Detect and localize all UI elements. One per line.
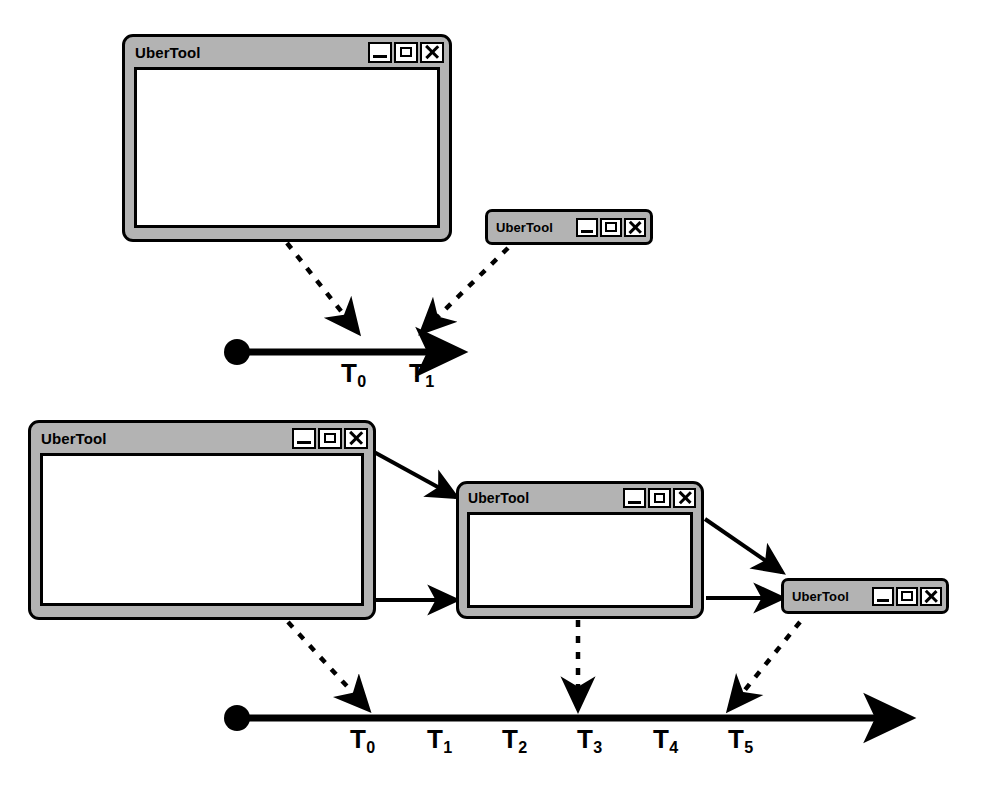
transition-arrow-s1-minimized-to-t1 [424,248,508,330]
close-icon[interactable] [624,218,646,237]
window-title: UberTool [792,590,849,603]
timeline-1-tick-label-t0: T0 [341,360,366,386]
window-controls[interactable] [576,218,646,237]
window-ubertool-large-s2[interactable]: UberTool [28,420,376,620]
close-icon[interactable] [344,428,368,449]
window-title: UberTool [468,491,529,505]
timeline-2-tick-label-t2: T2 [502,726,527,752]
maximize-icon[interactable] [600,218,622,237]
timeline-2-tick-label-t1: T1 [427,726,452,752]
timeline-2-tick-label-t0: T0 [350,726,375,752]
titlebar[interactable]: UberTool [784,581,946,611]
timeline-2 [224,705,908,731]
window-controls[interactable] [368,42,444,63]
maximize-icon[interactable] [318,428,342,449]
minimize-icon[interactable] [292,428,316,449]
close-icon[interactable] [920,587,942,606]
window-ubertool-minimized-s2[interactable]: UberTool [781,578,949,614]
maximize-icon[interactable] [648,488,671,508]
minimize-icon[interactable] [872,587,894,606]
window-title: UberTool [135,45,201,60]
window-controls[interactable] [623,488,696,508]
transition-arrow-s1-normal-to-t0 [287,243,356,330]
timeline-2-tick-label-t4: T4 [653,726,678,752]
close-icon[interactable] [420,42,444,63]
window-title: UberTool [496,221,553,234]
titlebar[interactable]: UberTool [125,37,449,67]
minimize-icon[interactable] [368,42,392,63]
window-content-area [40,453,364,606]
window-ubertool-medium-s2[interactable]: UberTool [456,481,704,619]
timeline-2-tick-label-t5: T5 [728,726,753,752]
minimize-icon[interactable] [623,488,646,508]
window-ubertool-normal-s1[interactable]: UberTool [122,34,452,242]
titlebar[interactable]: UberTool [488,212,650,242]
maximize-icon[interactable] [394,42,418,63]
transition-arrow-s2-minimized-to-t5 [731,622,800,707]
window-title: UberTool [41,431,107,446]
titlebar[interactable]: UberTool [459,484,701,512]
minimize-icon[interactable] [576,218,598,237]
timeline-2-tick-label-t3: T3 [577,726,602,752]
titlebar[interactable]: UberTool [31,423,373,453]
window-controls[interactable] [872,587,942,606]
window-content-area [467,512,693,608]
window-content-area [134,67,440,228]
transition-arrow-large-to-medium-diagonal [374,452,456,497]
window-ubertool-minimized-s1[interactable]: UberTool [485,209,653,245]
timeline-1-tick-label-t1: T1 [409,360,434,386]
transition-arrow-s2-large-to-t0 [288,622,366,707]
transition-arrow-medium-to-minimized-diagonal [705,519,782,572]
close-icon[interactable] [673,488,696,508]
window-controls[interactable] [292,428,368,449]
maximize-icon[interactable] [896,587,918,606]
